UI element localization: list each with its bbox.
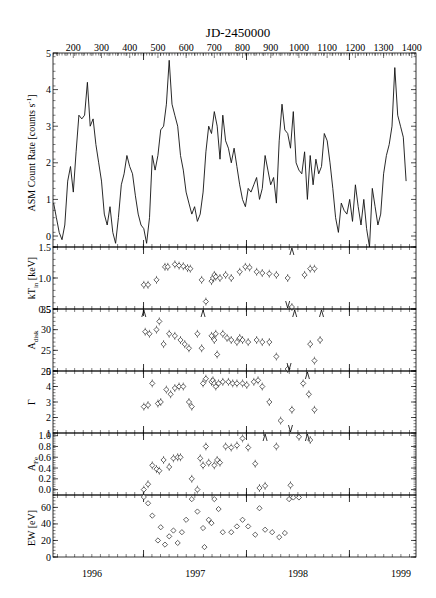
adisk-ylabel: Adisk [26,330,40,349]
y-tick-label: 0 [46,552,51,563]
y-tick-label: 40 [41,518,51,529]
data-point-diamond [296,495,301,500]
data-point-diamond [234,381,239,386]
data-point-diamond [184,517,189,522]
lower-limit-arrow [293,310,297,317]
data-point-diamond [312,266,317,271]
year-label: 1997 [185,568,205,579]
data-point-diamond [175,540,180,545]
y-tick-label: 20 [41,535,51,546]
data-point-diamond [216,506,221,511]
data-point-diamond [145,501,150,506]
top-tick-label: 1000 [289,42,309,53]
y-tick-label: 1.5 [39,242,52,253]
data-point-diamond [200,381,205,386]
figure: JD-2450000 20030040050060070080090010001… [0,0,436,598]
data-point-diamond [229,275,234,280]
data-point-diamond [260,339,265,344]
year-label: 1999 [391,568,411,579]
data-point-diamond [234,443,239,448]
data-point-diamond [246,524,251,529]
data-point-diamond [206,460,211,465]
top-tick-label: 400 [122,42,137,53]
data-point-diamond [179,530,184,535]
data-point-diamond [312,407,317,412]
data-point-diamond [240,517,245,522]
data-point-diamond [181,384,186,389]
data-point-diamond [274,272,279,277]
data-point-diamond [150,463,155,468]
y-tick-label: 0.0 [39,484,52,495]
data-point-diamond [141,487,146,492]
y-tick-label: 2 [46,412,51,423]
data-point-diamond [215,352,220,357]
ew-ylabel: EW [eV] [26,510,37,546]
data-point-diamond [178,337,183,342]
data-point-diamond [158,525,163,530]
data-point-diamond [195,331,200,336]
data-point-diamond [200,463,205,468]
data-point-diamond [240,436,245,441]
panels: 0123450.51.01.520253035123450.00.20.40.6… [39,48,417,563]
year-label: 1998 [288,568,308,579]
data-point-diamond [274,354,279,359]
data-point-diamond [278,418,283,423]
data-point-diamond [260,270,265,275]
data-point-diamond [285,275,290,280]
y-tick-label: 0 [46,231,51,242]
data-point-diamond [162,542,167,547]
data-point-diamond [202,544,207,549]
data-point-diamond [167,331,172,336]
data-point-diamond [274,444,279,449]
data-point-diamond [171,528,176,533]
data-point-diamond [306,392,311,397]
data-point-diamond [253,532,258,537]
y-tick-label: 25 [41,345,51,356]
data-point-diamond [318,337,323,342]
top-tick-label: 600 [179,42,194,53]
data-point-diamond [267,271,272,276]
data-point-diamond [277,535,282,540]
data-point-diamond [154,277,159,282]
y-tick-label: 30 [41,324,51,335]
data-point-diamond [257,506,262,511]
figure-title: JD-2450000 [206,25,270,40]
data-point-diamond [189,404,194,409]
data-point-diamond [312,358,317,363]
data-point-diamond [203,444,208,449]
panel-EW: 0204060 [41,494,416,562]
y-tick-label: 3 [46,121,51,132]
data-point-diamond [171,456,176,461]
data-point-diamond [161,457,166,462]
data-point-diamond [260,384,265,389]
data-point-diamond [145,482,150,487]
panel-frame [53,309,416,371]
y-tick-label: 35 [41,304,51,315]
y-tick-label: 3 [46,397,51,408]
data-point-diamond [267,399,272,404]
data-point-diamond [157,319,162,324]
top-tick-label: 900 [263,42,278,53]
data-point-diamond [199,277,204,282]
data-point-diamond [229,530,234,535]
data-point-diamond [199,346,204,351]
data-point-diamond [186,346,191,351]
panel-frame [53,247,416,309]
gamma-ylabel: Γ [26,399,37,405]
data-point-diamond [150,513,155,518]
data-point-diamond [167,464,172,469]
data-point-diamond [203,299,208,304]
top-tick-label: 1100 [317,42,337,53]
data-point-diamond [253,461,258,466]
data-point-diamond [167,534,172,539]
y-tick-label: 1.0 [39,273,52,284]
y-tick-label: 5 [46,48,51,59]
data-point-diamond [296,434,301,439]
lower-limit-arrow [320,310,324,317]
data-point-diamond [257,485,262,490]
top-tick-label: 1300 [374,42,394,53]
top-axis-tick-labels: 2003004005006007008009001000110012001300… [66,42,422,53]
panel-asm: 012345 [46,48,416,248]
data-point-diamond [270,530,275,535]
data-point-diamond [220,530,225,535]
